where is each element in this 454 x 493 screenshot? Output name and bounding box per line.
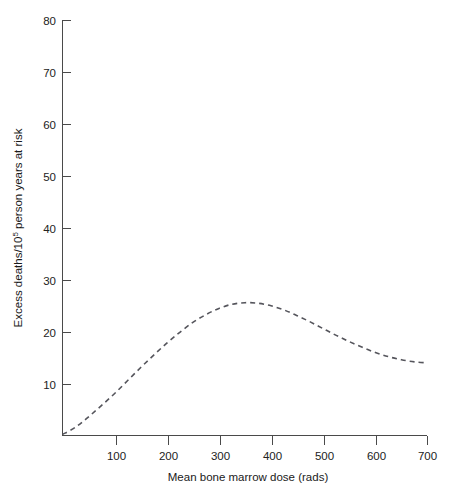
y-tick-label: 80 <box>43 15 56 27</box>
x-tick-label: 200 <box>159 450 178 462</box>
x-tick-label: 700 <box>418 450 437 462</box>
x-tick-label: 100 <box>107 450 126 462</box>
y-axis-title-main: Excess deaths/10 <box>12 237 24 328</box>
x-tick-label: 600 <box>367 450 386 462</box>
x-tick-label: 300 <box>211 450 230 462</box>
x-axis-title: Mean bone marrow dose (rads) <box>168 471 329 483</box>
y-tick-label: 10 <box>43 379 56 391</box>
y-axis-ticks <box>63 21 71 385</box>
x-axis-tick-labels: 100 200 300 400 500 600 700 <box>107 450 437 462</box>
y-tick-label: 60 <box>43 119 56 131</box>
y-axis-title-tail: person years at risk <box>12 128 24 232</box>
x-tick-label: 400 <box>263 450 282 462</box>
y-tick-label: 50 <box>43 171 56 183</box>
y-tick-label: 70 <box>43 67 56 79</box>
y-tick-label: 20 <box>43 327 56 339</box>
y-axis-title: Excess deaths/105 person years at risk <box>11 128 24 327</box>
y-tick-label: 40 <box>43 223 56 235</box>
y-tick-label: 30 <box>43 275 56 287</box>
y-axis-tick-labels: 80 70 60 50 40 30 20 10 <box>43 15 56 391</box>
excess-deaths-curve <box>63 303 428 435</box>
svg-text:Excess deaths/105 person years: Excess deaths/105 person years at risk <box>11 128 24 327</box>
chart-figure: 80 70 60 50 40 30 20 10 100 200 300 400 … <box>0 0 454 493</box>
x-tick-label: 500 <box>315 450 334 462</box>
x-axis-ticks <box>117 436 428 445</box>
chart-plot-area: 80 70 60 50 40 30 20 10 100 200 300 400 … <box>0 0 454 493</box>
